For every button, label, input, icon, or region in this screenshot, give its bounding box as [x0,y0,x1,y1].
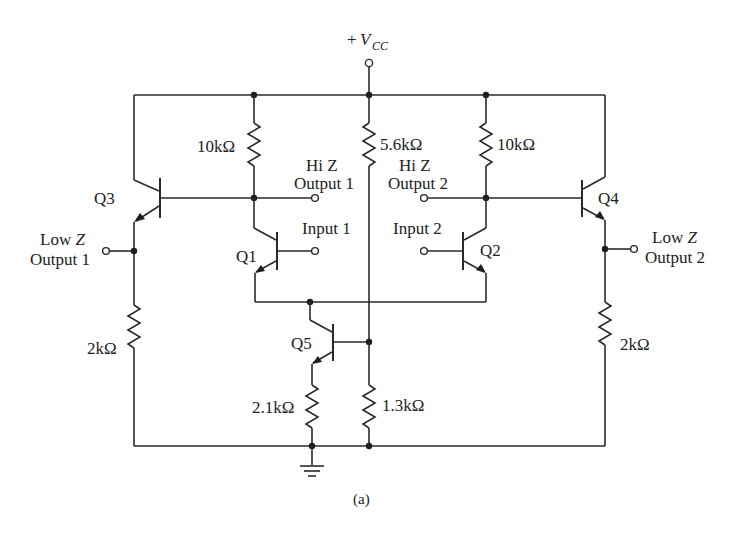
low-z-output-1: Low Z Output 1 [30,230,137,269]
hi-z-output-1-line1: Hi Z [306,156,338,175]
low-z-output-1-line1: Low Z [40,230,85,249]
transistor-label: Q3 [94,189,115,208]
transistor-label: Q1 [236,247,257,266]
vcc-terminal[interactable] [365,59,372,66]
resistor-label: 2kΩ [620,335,650,354]
transistor-q1: Input 1 Q1 [236,198,351,302]
junction-dot [366,443,372,449]
transistor-label: Q5 [291,334,312,353]
hi-z-output-2-line2: Output 2 [388,174,448,193]
transistor-label: Q2 [480,241,501,260]
transistor-q5: Q5 [291,302,372,385]
resistor-label: 5.6kΩ [380,135,422,154]
resistor-q4-emitter: 2kΩ [599,302,650,446]
resistor-q3-emitter: 2kΩ [87,305,140,446]
resistor-q2-collector: 10kΩ [480,95,535,198]
emitter-arrow-icon [476,264,486,273]
hi-z-output-1-terminal[interactable] [312,195,319,202]
low-z-output-1-line2: Output 1 [30,250,90,269]
vcc-supply: + V CC [347,30,389,95]
transistor-q3: Q3 [94,95,160,305]
hi-z-output-1-line2: Output 1 [294,174,354,193]
ground-icon [300,446,324,476]
junction-dot [131,248,137,254]
vcc-prefix: + [347,30,357,49]
circuit-diagram: + V CC 10kΩ 5.6kΩ 10kΩ Hi Z Output 1 [0,0,747,535]
input-2-label: Input 2 [393,219,442,238]
resistor-label: 1.3kΩ [382,396,424,415]
hi-z-output-2-terminal[interactable] [421,195,428,202]
resistor-q1-collector: 10kΩ [197,95,260,198]
hi-z-output-2-line1: Hi Z [399,156,431,175]
emitter-arrow-icon [134,213,145,222]
input-1-terminal[interactable] [312,248,319,255]
low-z-output-2-line2: Output 2 [645,248,705,267]
transistor-label: Q4 [598,189,619,208]
low-z-output-1-terminal[interactable] [103,248,110,255]
resistor-bias-bottom: 1.3kΩ [363,342,424,446]
resistor-label: 10kΩ [497,135,535,154]
emitter-arrow-icon [255,265,265,273]
input-2-terminal[interactable] [421,248,428,255]
emitter-arrow-icon [312,356,322,364]
low-z-output-2-line1: Low Z [652,228,697,247]
resistor-label: 2kΩ [87,339,117,358]
junction-dot [602,246,608,252]
resistor-label: 2.1kΩ [252,398,294,417]
vcc-subscript: CC [372,39,389,53]
hi-z-output-1: Hi Z Output 1 [160,156,354,201]
transistor-q2: Input 2 Q2 [393,198,501,302]
transistor-q4: Q4 [582,95,619,302]
input-1-label: Input 1 [302,219,351,238]
resistor-label: 10kΩ [197,137,235,156]
resistor-q5-emitter: 2.1kΩ [252,385,318,446]
low-z-output-2-terminal[interactable] [631,246,638,253]
figure-caption: (a) [353,491,370,508]
emitter-arrow-icon [595,211,605,220]
low-z-output-2: Low Z Output 2 [602,228,705,267]
